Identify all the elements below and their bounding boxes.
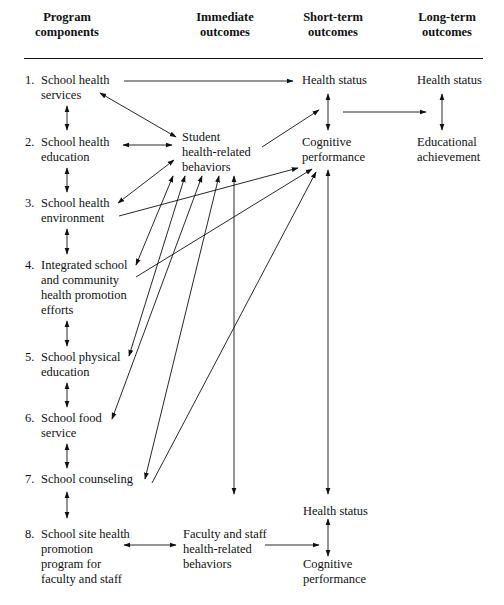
arrow-1-behaviors	[100, 93, 176, 137]
arrow-3-to-cognitive	[119, 168, 298, 216]
arrow-4-to-cognitive	[136, 169, 312, 277]
arrow-behaviors-to-short-term	[262, 110, 319, 147]
diagram-arrows	[0, 0, 504, 605]
arrow-5-behaviors	[129, 176, 185, 356]
arrow-3-behaviors	[118, 160, 174, 203]
arrow-6-behaviors	[112, 176, 202, 419]
arrow-4-behaviors	[136, 176, 173, 265]
arrow-7-behaviors	[145, 176, 219, 479]
